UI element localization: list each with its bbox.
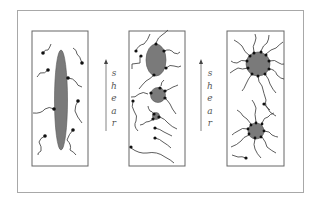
shear-letter: e <box>108 92 120 105</box>
surfactant-head <box>260 136 263 139</box>
surfactant-head <box>262 102 265 105</box>
surfactant-head <box>134 49 137 52</box>
surfactant-head <box>131 99 134 102</box>
surfactant-head <box>244 156 247 159</box>
surfactant-head <box>163 89 166 92</box>
shear-arrow-2 <box>199 59 203 131</box>
micelle-core-medium <box>151 88 166 103</box>
surfactant-head <box>255 122 258 125</box>
surfactant-head <box>257 75 260 78</box>
surfactant-head <box>264 73 267 76</box>
surfactant-head <box>154 42 157 45</box>
surfactant-head <box>164 66 167 69</box>
surfactant-head <box>248 133 251 136</box>
surfactant-head <box>265 54 268 57</box>
surfactant-head <box>151 117 154 120</box>
shear-letter: a <box>204 105 216 118</box>
surfactant-head <box>66 76 70 80</box>
surfactant-head <box>268 60 271 63</box>
surfactant-head <box>153 126 156 129</box>
panel-3-border <box>227 31 284 166</box>
surfactant-head <box>139 54 142 57</box>
surfactant-head <box>158 86 161 89</box>
micelle-diagram <box>0 0 322 207</box>
surfactant-head <box>246 60 249 63</box>
surfactant-head <box>46 68 50 72</box>
surfactant-head <box>263 130 266 133</box>
surfactant-head <box>162 49 165 52</box>
surfactant-head <box>260 51 263 54</box>
arrowhead-icon <box>104 59 108 64</box>
shear-letter: r <box>108 117 120 130</box>
surfactant-head <box>251 73 254 76</box>
shear-label-2: s h e a r <box>204 67 216 130</box>
shear-letter: e <box>204 92 216 105</box>
surfactant-head <box>76 99 80 103</box>
panel-1 <box>33 44 84 155</box>
surfactant-head <box>247 128 250 131</box>
surfactant-head <box>157 115 160 118</box>
surfactant-head <box>261 123 264 126</box>
surfactant-head <box>254 137 257 140</box>
arrowhead-icon <box>199 59 203 64</box>
surfactant-head <box>80 61 84 65</box>
surfactant-head <box>149 91 152 94</box>
surfactant-head <box>152 112 155 115</box>
shear-letter: s <box>108 67 120 80</box>
panel-3 <box>230 34 284 160</box>
shear-letter: a <box>108 105 120 118</box>
shear-letter: r <box>204 117 216 130</box>
shear-letter: h <box>108 80 120 93</box>
surfactant-head <box>152 73 155 76</box>
surfactant-head <box>249 55 252 58</box>
shear-letter: s <box>204 67 216 80</box>
shear-letter: h <box>204 80 216 93</box>
surfactant-head <box>247 67 250 70</box>
panel-2 <box>129 30 181 163</box>
elongated-micelle-core <box>55 50 68 150</box>
surfactant-head <box>41 51 45 55</box>
surfactant-head <box>250 124 253 127</box>
surfactant-head <box>129 145 132 148</box>
surfactant-head <box>268 68 271 71</box>
micelle-core-large <box>146 44 166 76</box>
surfactant-head <box>253 52 256 55</box>
surfactant-head <box>43 134 47 138</box>
surfactant-head <box>71 128 75 132</box>
surfactant-head <box>52 107 56 111</box>
shear-label-1: s h e a r <box>108 67 120 130</box>
surfactant-head <box>153 136 156 139</box>
surfactant-head <box>163 96 166 99</box>
